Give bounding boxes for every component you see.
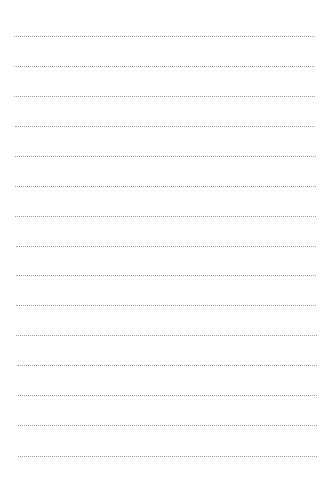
ruled-line [14,66,315,67]
ruled-line [16,335,317,336]
ruled-line [18,425,317,426]
lined-paper-sheet [0,0,333,484]
ruled-line [16,275,316,276]
ruled-line [15,126,315,127]
ruled-line [16,246,316,247]
ruled-line [14,36,315,37]
ruled-line [14,96,315,97]
ruled-line [18,456,317,457]
ruled-line [16,305,316,306]
ruled-line [15,216,316,217]
ruled-line [15,156,316,157]
ruled-line [15,186,316,187]
ruled-line [18,395,317,396]
ruled-line [17,365,317,366]
